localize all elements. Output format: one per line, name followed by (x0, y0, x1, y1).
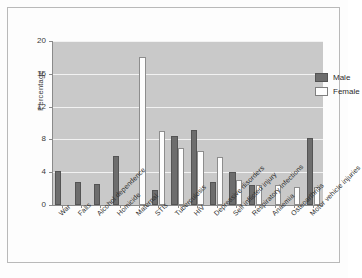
gridline (52, 41, 323, 42)
y-tick-label: 8 (30, 134, 46, 143)
y-tick-label: 4 (30, 167, 46, 176)
bar (171, 136, 177, 205)
y-tick-label: 16 (30, 69, 46, 78)
y-tick-mark (49, 172, 52, 173)
legend-label-male: Male (333, 73, 350, 82)
legend-item-female: Female (315, 86, 360, 97)
bar (210, 182, 216, 205)
legend-swatch-female-icon (315, 87, 328, 96)
bar (139, 57, 145, 205)
legend-swatch-male-icon (315, 73, 328, 82)
y-axis-title: Percentage (36, 51, 45, 131)
gridline (52, 172, 323, 173)
y-tick-mark (49, 139, 52, 140)
bar (94, 184, 100, 205)
bar (159, 131, 165, 205)
y-tick-mark (49, 74, 52, 75)
y-tick-label: 20 (30, 36, 46, 45)
chart-legend: Male Female (315, 72, 360, 100)
y-tick-mark (49, 107, 52, 108)
bar (178, 148, 184, 205)
legend-label-female: Female (333, 87, 360, 96)
bar (217, 157, 223, 205)
figure-frame: Percentage Male Female 048121620 WarFall… (7, 7, 340, 263)
y-tick-mark (49, 205, 52, 206)
legend-item-male: Male (315, 72, 360, 83)
bar (75, 182, 81, 205)
y-axis-line (52, 41, 53, 206)
gridline (52, 107, 323, 108)
y-tick-label: 12 (30, 102, 46, 111)
gridline (52, 139, 323, 140)
gridline (52, 74, 323, 75)
bar (55, 171, 61, 205)
y-tick-label: 0 (30, 200, 46, 209)
y-tick-mark (49, 41, 52, 42)
